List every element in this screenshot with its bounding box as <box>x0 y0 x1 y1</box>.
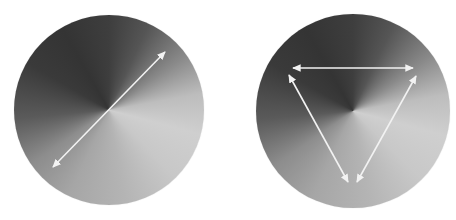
arrow-overlay <box>0 0 456 220</box>
double-arrow-right <box>357 76 416 182</box>
double-arrow-diagonal <box>53 52 165 167</box>
double-arrow-left <box>289 75 348 182</box>
